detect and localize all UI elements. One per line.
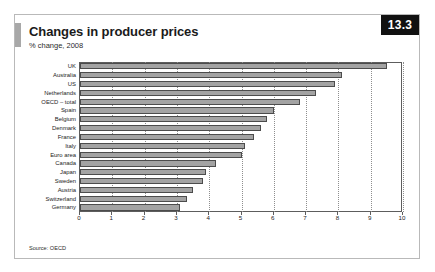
category-label: Netherlands (44, 90, 76, 96)
bar (80, 169, 206, 175)
gridline (403, 62, 404, 212)
bar-row (80, 134, 403, 140)
category-label: Euro area (50, 152, 76, 158)
x-axis-tick-label: 2 (142, 214, 145, 221)
figure-number-badge: 13.3 (381, 15, 419, 35)
x-axis-tick-label: 8 (336, 214, 339, 221)
bar-row (80, 196, 403, 202)
x-axis-tick-label: 9 (368, 214, 371, 221)
category-label: Austria (58, 187, 76, 193)
category-label: Spain (61, 107, 76, 113)
bar-row (80, 169, 403, 175)
x-axis-tick-label: 0 (77, 214, 80, 221)
category-label: Japan (60, 169, 76, 175)
bar-row (80, 63, 403, 69)
bar-row (80, 204, 403, 210)
title-accent-bar (15, 23, 21, 47)
bar (80, 178, 203, 184)
bar (80, 116, 267, 122)
bar (80, 107, 274, 113)
bar-row (80, 178, 403, 184)
bar (80, 72, 342, 78)
bar (80, 63, 387, 69)
bar (80, 143, 245, 149)
bar (80, 134, 254, 140)
category-label: UK (68, 63, 76, 69)
bar (80, 160, 216, 166)
bar (80, 81, 335, 87)
plot-area (79, 62, 402, 212)
chart-figure: 13.3 Changes in producer prices % change… (14, 14, 420, 259)
bar (80, 204, 180, 210)
x-axis-tick-label: 4 (206, 214, 209, 221)
bar-row (80, 99, 403, 105)
category-label: OECD – total (41, 99, 76, 105)
bar-row (80, 90, 403, 96)
x-axis-tick-labels: 012345678910 (79, 214, 402, 226)
x-axis-tick-label: 1 (110, 214, 113, 221)
bar-row (80, 143, 403, 149)
bar-row (80, 72, 403, 78)
bar-row (80, 187, 403, 193)
category-label: Sweden (55, 178, 76, 184)
x-axis-tick-label: 6 (271, 214, 274, 221)
category-label: Denmark (52, 125, 76, 131)
category-label: Italy (65, 143, 76, 149)
x-axis-tick-label: 3 (174, 214, 177, 221)
chart-subtitle: % change, 2008 (29, 41, 83, 50)
category-label: Australia (53, 72, 76, 78)
bar-row (80, 107, 403, 113)
bar (80, 196, 187, 202)
x-axis-tick-label: 10 (399, 214, 406, 221)
bar (80, 187, 193, 193)
chart-title: Changes in producer prices (29, 24, 198, 39)
bar-row (80, 81, 403, 87)
bar (80, 99, 300, 105)
source-note: Source: OECD (29, 245, 66, 251)
x-axis-tick-label: 5 (239, 214, 242, 221)
bar-row (80, 125, 403, 131)
bar (80, 152, 242, 158)
category-label: France (58, 134, 76, 140)
category-label: Switzerland (46, 196, 76, 202)
bar-row (80, 116, 403, 122)
bar-row (80, 160, 403, 166)
bar (80, 90, 316, 96)
category-axis-labels: UKAustraliaUSNetherlandsOECD – totalSpai… (15, 62, 76, 212)
category-label: Germany (52, 204, 76, 210)
category-label: US (68, 81, 76, 87)
category-label: Canada (55, 160, 76, 166)
bar-row (80, 152, 403, 158)
category-label: Belgium (55, 116, 76, 122)
x-axis-tick-label: 7 (303, 214, 306, 221)
bar (80, 125, 261, 131)
